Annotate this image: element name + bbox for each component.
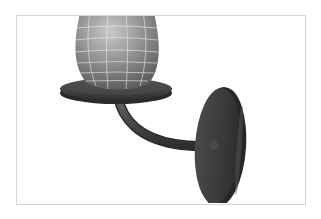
globe-shade [74,12,159,90]
sconce-render [0,0,321,219]
oval-wall-plate [191,85,250,208]
